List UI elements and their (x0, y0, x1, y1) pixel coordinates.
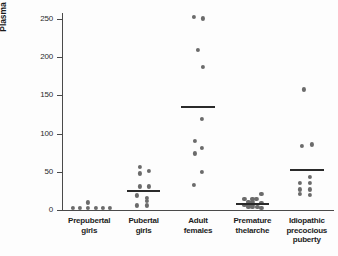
mean-line (127, 190, 161, 192)
data-point (86, 200, 90, 204)
data-point (147, 169, 151, 173)
x-axis-label-3: Adultfemales (171, 216, 225, 235)
data-point (147, 184, 151, 188)
data-point (135, 193, 139, 197)
data-point (138, 184, 142, 188)
data-point (138, 165, 142, 169)
x-axis-label-4: Prematurethelarche (225, 216, 279, 235)
x-axis-label-5: Idiopathicprecociouspuberty (280, 216, 334, 245)
x-axis-label-line: precocious (280, 226, 334, 236)
data-point (308, 175, 312, 179)
data-point (200, 146, 204, 150)
data-point (145, 203, 149, 207)
y-tick-label-150: 150 (0, 90, 53, 99)
x-axis-label-line: girls (116, 226, 170, 236)
x-axis-label-line: Premature (225, 216, 279, 226)
data-point (250, 205, 254, 209)
data-point (192, 15, 196, 19)
data-point (310, 142, 314, 146)
x-axis-line (62, 210, 334, 211)
data-point (298, 180, 302, 184)
mean-line (236, 203, 270, 205)
y-tick-0 (57, 210, 62, 211)
y-tick-150 (57, 95, 62, 96)
x-axis-label-line: thelarche (225, 226, 279, 236)
x-axis-label-line: girls (62, 226, 116, 236)
x-axis-label-line: females (171, 226, 225, 236)
y-tick-label-200: 200 (0, 52, 53, 61)
y-tick-label-100: 100 (0, 129, 53, 138)
mean-line (181, 106, 215, 108)
data-point (193, 151, 197, 155)
scatter-plot-figure: Plasma E2 (pg/mL) 050100150200250 Prepub… (0, 0, 338, 256)
data-point (201, 65, 205, 69)
data-point (201, 16, 205, 20)
y-tick-label-50: 50 (0, 167, 53, 176)
y-axis-line (62, 13, 63, 211)
data-point (193, 139, 197, 143)
y-tick-50 (57, 172, 62, 173)
data-point (300, 144, 304, 148)
y-tick-250 (57, 19, 62, 20)
y-tick-label-0: 0 (0, 205, 53, 214)
data-point (259, 192, 263, 196)
x-axis-label-line: Prepubertal (62, 216, 116, 226)
data-point (135, 203, 139, 207)
x-axis-label-line: Adult (171, 216, 225, 226)
x-axis-label-line: puberty (280, 235, 334, 245)
y-axis-label: Plasma E2 (pg/mL) (0, 0, 10, 60)
data-point (298, 192, 302, 196)
data-point (302, 87, 306, 91)
data-point (308, 181, 312, 185)
data-point (308, 187, 312, 191)
y-tick-200 (57, 57, 62, 58)
data-point (192, 183, 196, 187)
data-point (196, 48, 200, 52)
data-point (254, 197, 258, 201)
data-point (145, 199, 149, 203)
data-point (308, 193, 312, 197)
data-point (200, 170, 204, 174)
x-axis-label-line: Pubertal (116, 216, 170, 226)
y-tick-100 (57, 134, 62, 135)
x-axis-label-2: Pubertalgirls (116, 216, 170, 235)
y-tick-label-250: 250 (0, 14, 53, 23)
data-point (200, 117, 204, 121)
x-axis-label-1: Prepubertalgirls (62, 216, 116, 235)
data-point (138, 171, 142, 175)
mean-line (290, 169, 324, 171)
data-point (298, 187, 302, 191)
x-axis-label-line: Idiopathic (280, 216, 334, 226)
